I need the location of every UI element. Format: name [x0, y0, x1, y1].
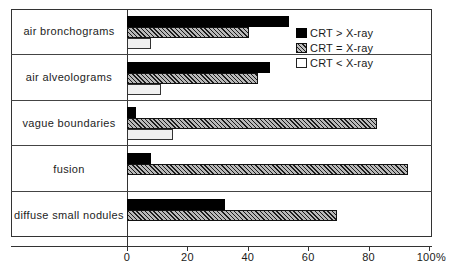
bar-gt: [127, 62, 270, 73]
x-tick-label: 60: [302, 251, 315, 263]
chart-row: vague boundaries: [11, 101, 432, 147]
bar-group: [127, 9, 432, 55]
chart-row: diffuse small nodules: [11, 192, 432, 237]
legend-label-eq: CRT = X-ray: [310, 42, 373, 54]
bar-eq: [127, 27, 249, 38]
legend-label-lt: CRT < X-ray: [310, 57, 373, 69]
grouped-horizontal-bar-chart: air bronchogramsair alveologramsvague bo…: [0, 0, 455, 270]
bar-eq: [127, 164, 408, 175]
bar-eq: [127, 210, 337, 221]
bar-eq: [127, 73, 258, 84]
bar-lt: [127, 38, 151, 49]
bar-lt: [127, 129, 173, 140]
category-label: vague boundaries: [11, 101, 127, 146]
bar-gt: [127, 107, 136, 118]
bar-group: [127, 101, 432, 147]
bar-eq: [127, 118, 377, 129]
bar-lt: [127, 84, 161, 95]
solid-black-swatch-icon: [296, 28, 307, 38]
category-label: air bronchograms: [11, 9, 127, 54]
bar-group: [127, 55, 432, 101]
bar-gt: [127, 199, 225, 210]
x-tick-label: 0: [124, 251, 130, 263]
category-label: air alveolograms: [11, 55, 127, 100]
x-tick-label: 40: [241, 251, 254, 263]
bar-group: [127, 146, 432, 192]
bar-group: [127, 192, 432, 238]
legend-item-lt: CRT < X-ray: [296, 57, 373, 69]
category-label: diffuse small nodules: [11, 192, 127, 237]
legend-item-eq: CRT = X-ray: [296, 42, 373, 54]
hatched-swatch-icon: [296, 43, 307, 53]
legend-label-gt: CRT > X-ray: [310, 27, 373, 39]
x-tick-label: 80: [362, 251, 375, 263]
chart-legend: CRT > X-ray CRT = X-ray CRT < X-ray: [296, 27, 373, 69]
white-swatch-icon: [296, 58, 307, 68]
x-tick-label: 100%: [417, 251, 446, 263]
chart-row: fusion: [11, 146, 432, 192]
bar-gt: [127, 16, 289, 27]
category-label: fusion: [11, 146, 127, 191]
bar-gt: [127, 153, 151, 164]
legend-item-gt: CRT > X-ray: [296, 27, 373, 39]
x-tick-label: 20: [181, 251, 194, 263]
